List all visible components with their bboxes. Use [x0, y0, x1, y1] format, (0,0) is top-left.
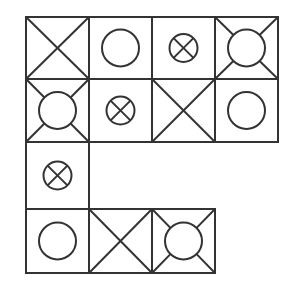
symbol-grid-puzzle [0, 0, 300, 282]
x-icon [26, 17, 89, 79]
circle-corners-icon [26, 79, 89, 142]
x-icon [152, 79, 215, 142]
crossed-circle-icon [89, 79, 152, 142]
grid-cell-r3-c1 [26, 142, 89, 209]
grid-cell-r2-c1 [26, 79, 89, 142]
crossed-circle-icon [152, 17, 215, 79]
crossed-circle-icon [26, 142, 89, 209]
grid-cell-r1-c4 [215, 17, 278, 79]
grid-cell-r4-c1 [26, 209, 89, 273]
grid-cell-r2-c3 [152, 79, 215, 142]
grid-cell-r1-c3 [152, 17, 215, 79]
grid-cell-r2-c2 [89, 79, 152, 142]
circle-corners-icon [152, 209, 215, 273]
grid-cell-r2-c4 [215, 79, 278, 142]
circle-corners-icon [215, 17, 278, 79]
circle-icon [215, 79, 278, 142]
circle-icon [26, 209, 89, 273]
grid-cell-r4-c2 [89, 209, 152, 273]
grid-cell-r4-c3 [152, 209, 215, 273]
circle-icon [89, 17, 152, 79]
grid-cell-r1-c1 [26, 17, 89, 79]
grid-cell-r1-c2 [89, 17, 152, 79]
x-icon [89, 209, 152, 273]
